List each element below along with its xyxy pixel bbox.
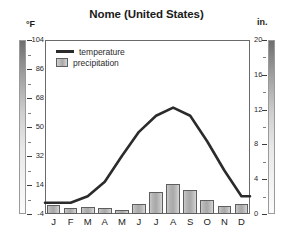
chart-legend: temperature precipitation xyxy=(52,45,164,72)
left-tick-mark xyxy=(27,185,32,186)
legend-label-temperature: temperature xyxy=(79,47,125,57)
left-tick-mark xyxy=(27,98,32,99)
right-tick-mark xyxy=(262,40,267,41)
month-label: F xyxy=(62,216,79,227)
left-tick-mark xyxy=(27,156,32,157)
bar-swatch-icon xyxy=(56,58,68,67)
left-minor-tick-mark xyxy=(28,55,31,56)
left-minor-tick-mark xyxy=(28,113,31,114)
month-label: O xyxy=(199,216,216,227)
right-tick-mark xyxy=(262,110,267,111)
chart-title: Nome (United States) xyxy=(0,8,293,20)
right-minor-tick-mark xyxy=(263,57,266,58)
left-minor-tick-mark xyxy=(28,84,31,85)
left-tick-mark xyxy=(27,40,32,41)
right-tick-mark xyxy=(262,75,267,76)
left-tick-mark xyxy=(27,69,32,70)
line-swatch-icon xyxy=(56,50,74,53)
left-tick-mark xyxy=(27,214,32,215)
month-label: D xyxy=(233,216,250,227)
right-minor-tick-mark xyxy=(263,197,266,198)
right-axis-gradient-strip xyxy=(268,40,275,214)
right-minor-tick-mark xyxy=(263,92,266,93)
month-label: N xyxy=(216,216,233,227)
month-label: J xyxy=(45,216,62,227)
legend-item-precipitation: precipitation xyxy=(56,58,119,68)
right-minor-tick-mark xyxy=(263,127,266,128)
right-axis-unit-label: in. xyxy=(257,17,268,27)
legend-label-precipitation: precipitation xyxy=(73,58,119,68)
month-label: M xyxy=(113,216,130,227)
left-tick-mark xyxy=(27,127,32,128)
month-label: M xyxy=(79,216,96,227)
left-minor-tick-mark xyxy=(28,171,31,172)
legend-item-temperature: temperature xyxy=(56,47,125,57)
right-minor-tick-mark xyxy=(263,162,266,163)
right-tick-mark xyxy=(262,214,267,215)
left-axis-unit-label: °F xyxy=(26,19,35,29)
month-label: J xyxy=(148,216,165,227)
left-minor-tick-mark xyxy=(28,142,31,143)
left-minor-tick-mark xyxy=(28,200,31,201)
month-label: A xyxy=(165,216,182,227)
climate-chart: Nome (United States) °F in. -41432506886… xyxy=(0,0,293,240)
right-tick-mark xyxy=(262,179,267,180)
month-label: A xyxy=(96,216,113,227)
right-tick-mark xyxy=(262,144,267,145)
month-label: S xyxy=(182,216,199,227)
month-label: J xyxy=(130,216,147,227)
